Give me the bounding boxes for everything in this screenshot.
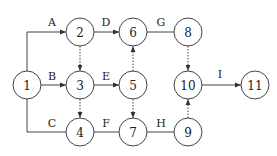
label-G: G	[157, 16, 166, 29]
node-11: 11	[241, 71, 269, 99]
node-8: 8	[174, 18, 202, 46]
edge-A	[27, 32, 66, 71]
node-10: 10	[174, 71, 202, 99]
label-E: E	[102, 70, 110, 83]
node-5: 5	[119, 71, 147, 99]
svg-text:3: 3	[76, 79, 84, 93]
svg-text:1: 1	[23, 79, 31, 93]
label-B: B	[48, 70, 56, 83]
svg-text:8: 8	[184, 26, 192, 40]
svg-text:11: 11	[247, 79, 262, 93]
edge-C	[27, 99, 66, 132]
label-C: C	[48, 117, 56, 130]
node-3: 3	[66, 71, 94, 99]
network-diagram: A B C D E F G H I 1 2 3 4 5 6 7 8 9 10 1…	[0, 0, 277, 156]
node-4: 4	[66, 118, 94, 146]
svg-text:7: 7	[129, 126, 137, 140]
label-F: F	[102, 117, 110, 130]
label-H: H	[156, 117, 166, 130]
node-9: 9	[174, 118, 202, 146]
label-I: I	[218, 68, 222, 81]
svg-text:5: 5	[129, 79, 137, 93]
svg-text:2: 2	[76, 26, 84, 40]
node-7: 7	[119, 118, 147, 146]
node-2: 2	[66, 18, 94, 46]
svg-text:6: 6	[129, 26, 137, 40]
label-A: A	[47, 16, 57, 29]
node-6: 6	[119, 18, 147, 46]
svg-text:10: 10	[180, 79, 195, 93]
label-D: D	[102, 16, 111, 29]
node-1: 1	[13, 71, 41, 99]
svg-text:9: 9	[184, 126, 192, 140]
svg-text:4: 4	[76, 126, 84, 140]
